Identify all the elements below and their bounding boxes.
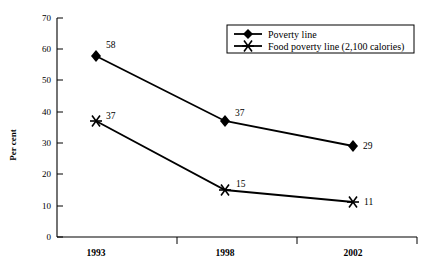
point-label-food-1993: 37 — [106, 111, 116, 121]
x-tick-label-1993: 1993 — [87, 248, 106, 258]
chart-canvas: 70 60 50 40 30 20 10 0 Per cent 1993 199… — [0, 0, 428, 265]
point-label-food-1998: 15 — [236, 179, 246, 189]
y-tick-label-70: 70 — [42, 13, 52, 23]
point-label-poverty-1998: 37 — [235, 108, 245, 118]
asterisk-marker-icon — [347, 197, 359, 208]
point-label-poverty-2002: 29 — [363, 141, 373, 151]
y-tick-label-60: 60 — [42, 44, 52, 54]
x-axis-ticks — [177, 237, 417, 244]
asterisk-marker-icon — [219, 185, 231, 196]
diamond-marker-icon — [348, 140, 358, 152]
y-tick-label-40: 40 — [42, 107, 52, 117]
y-axis-ticks — [57, 18, 63, 237]
x-tick-label-1998: 1998 — [216, 248, 235, 258]
chart-legend: Poverty line Food poverty line (2,100 ca… — [227, 25, 414, 53]
y-tick-label-10: 10 — [42, 201, 52, 211]
legend-label-food-poverty-line: Food poverty line (2,100 calories) — [268, 41, 404, 53]
series-markers-poverty-line — [91, 50, 358, 152]
legend-label-poverty-line: Poverty line — [268, 29, 317, 40]
asterisk-marker-icon — [90, 116, 102, 127]
series-line-poverty-line — [96, 56, 353, 146]
y-tick-label-0: 0 — [47, 232, 52, 242]
y-tick-label-30: 30 — [42, 138, 52, 148]
series-markers-food-poverty-line — [90, 116, 359, 208]
diamond-marker-icon — [91, 50, 101, 62]
point-label-poverty-1993: 58 — [106, 40, 116, 50]
diamond-marker-icon — [220, 115, 230, 127]
line-chart: 70 60 50 40 30 20 10 0 Per cent 1993 199… — [0, 0, 428, 265]
y-axis-title: Per cent — [8, 129, 18, 161]
x-tick-label-2002: 2002 — [344, 248, 363, 258]
y-tick-label-20: 20 — [42, 169, 52, 179]
point-label-food-2002: 11 — [364, 197, 373, 207]
y-tick-label-50: 50 — [42, 75, 52, 85]
